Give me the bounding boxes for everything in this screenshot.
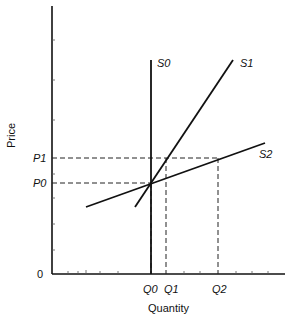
x-axis-label: Quantity xyxy=(148,302,189,314)
q0-label: Q0 xyxy=(143,283,159,295)
s0-label: S0 xyxy=(157,57,171,69)
s2-curve xyxy=(86,143,265,207)
p0-label: P0 xyxy=(33,177,47,189)
s1-label: S1 xyxy=(240,57,253,69)
p1-label: P1 xyxy=(33,152,46,164)
y-axis-label: Price xyxy=(5,123,17,148)
supply-diagram: S0 S1 S2 P1 P0 0 Q0 Q1 Q2 Quantity Price xyxy=(0,0,287,319)
q1-label: Q1 xyxy=(164,283,179,295)
guide-lines xyxy=(52,158,218,274)
s2-label: S2 xyxy=(259,148,272,160)
q2-label: Q2 xyxy=(212,283,227,295)
origin-label: 0 xyxy=(37,268,43,280)
